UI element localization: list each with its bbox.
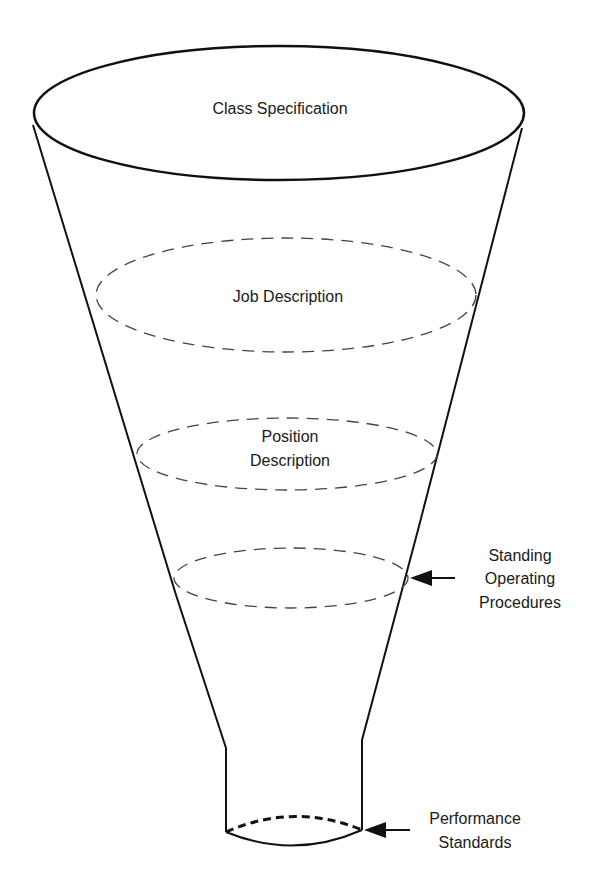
bottom-solid-arc [226, 830, 362, 846]
label-position-line1: Position [190, 426, 390, 447]
label-class-specification: Class Specification [180, 98, 380, 119]
arrow-performance-icon [364, 822, 386, 838]
arrow-sop-icon [410, 570, 432, 586]
ellipse-sop [174, 548, 408, 608]
label-sop-line2: Operating [450, 568, 590, 589]
label-position-line2: Description [190, 450, 390, 471]
bottom-dashed-arc [226, 816, 362, 832]
label-performance-line1: Performance [410, 808, 540, 829]
funnel-right-side [362, 128, 522, 830]
label-performance-line2: Standards [410, 832, 540, 853]
label-job-description: Job Description [188, 286, 388, 307]
label-sop-line3: Procedures [450, 592, 590, 613]
label-sop-line1: Standing [450, 545, 590, 566]
